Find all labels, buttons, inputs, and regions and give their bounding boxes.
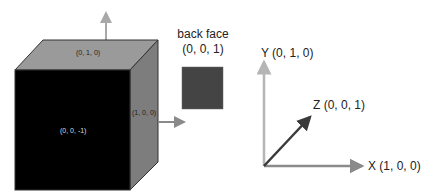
y-axis-label: Y (0, 1, 0) xyxy=(261,46,313,60)
x-axis-label: X (1, 0, 0) xyxy=(368,159,421,173)
back-face-normal-label: (0, 0, 1) xyxy=(176,42,230,56)
back-face-square xyxy=(182,67,223,109)
front-face-label: (0, 0, -1) xyxy=(60,127,86,134)
z-axis-label: Z (0, 0, 1) xyxy=(313,98,365,112)
back-face-title: back face xyxy=(176,27,230,41)
z-axis-arrow xyxy=(264,117,310,166)
top-face-label: (0, 1, 0) xyxy=(76,49,100,56)
right-face-label: (1, 0, 0) xyxy=(132,109,156,116)
